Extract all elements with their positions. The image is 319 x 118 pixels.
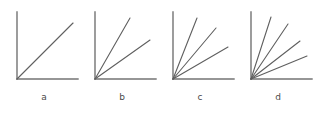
ray-d-4 xyxy=(251,56,307,79)
panel-label-d: d xyxy=(275,92,281,102)
panel-label-b: b xyxy=(119,92,125,102)
panel-c: c xyxy=(173,12,234,102)
panel-d: d xyxy=(251,12,312,102)
ray-d-3 xyxy=(251,41,300,79)
ray-d-2 xyxy=(251,24,288,79)
ray-c-2 xyxy=(173,28,216,79)
ray-b-1 xyxy=(95,18,130,79)
panel-label-a: a xyxy=(41,92,47,102)
ray-a-1 xyxy=(17,23,73,79)
figure-canvas: abcd xyxy=(0,0,319,118)
ray-c-3 xyxy=(173,47,228,79)
panel-label-c: c xyxy=(198,92,203,102)
ray-d-1 xyxy=(251,17,271,79)
panel-a: a xyxy=(17,12,78,102)
panel-b: b xyxy=(95,12,156,102)
ray-b-2 xyxy=(95,40,150,79)
ray-diagram-figure: abcd xyxy=(0,0,319,118)
ray-c-1 xyxy=(173,18,197,79)
